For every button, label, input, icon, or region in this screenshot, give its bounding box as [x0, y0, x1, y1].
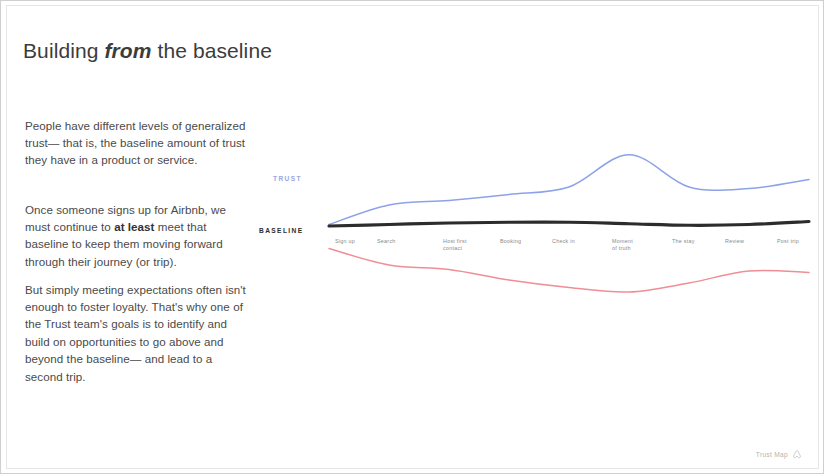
trust-map-chart: TRUST BASELINE Sign upSearchHost first c… [251, 96, 821, 396]
chart-stage-axis: Sign upSearchHost first contactBookingCh… [251, 238, 821, 262]
chart-stage-label: Host first contact [443, 238, 489, 253]
footer-label: Trust Map [756, 451, 788, 458]
body-paragraph-2-strong: at least [114, 220, 154, 233]
chart-stage-label: Post trip [777, 238, 823, 245]
chart-stage-label: Search [377, 238, 423, 245]
body-paragraph-1: People have different levels of generali… [25, 117, 250, 169]
footer: Trust Map [756, 450, 801, 459]
page-title-part-2: the baseline [152, 39, 272, 62]
chart-series-baseline [329, 222, 809, 227]
page-title: Building from the baseline [23, 37, 273, 65]
page-title-emphasis: from [104, 39, 151, 62]
axis-label-trust: TRUST [273, 175, 302, 182]
airbnb-belo-icon [793, 450, 801, 459]
body-paragraph-2: Once someone signs up for Airbnb, we mus… [25, 201, 250, 271]
chart-stage-label: Sign up [335, 238, 381, 245]
chart-stage-label: Review [725, 238, 771, 245]
chart-series-above-the-baseline [329, 155, 809, 225]
axis-label-baseline: BASELINE [259, 227, 304, 234]
chart-stage-label: Check in [552, 238, 598, 245]
chart-stage-label: The stay [672, 238, 718, 245]
chart-stage-label: Booking [500, 238, 546, 245]
chart-stage-label: Moment of truth [612, 238, 658, 253]
body-paragraph-3: But simply meeting expectations often is… [25, 281, 250, 385]
slide-canvas: Building from the baseline People have d… [0, 0, 824, 474]
page-title-part-1: Building [23, 39, 104, 62]
